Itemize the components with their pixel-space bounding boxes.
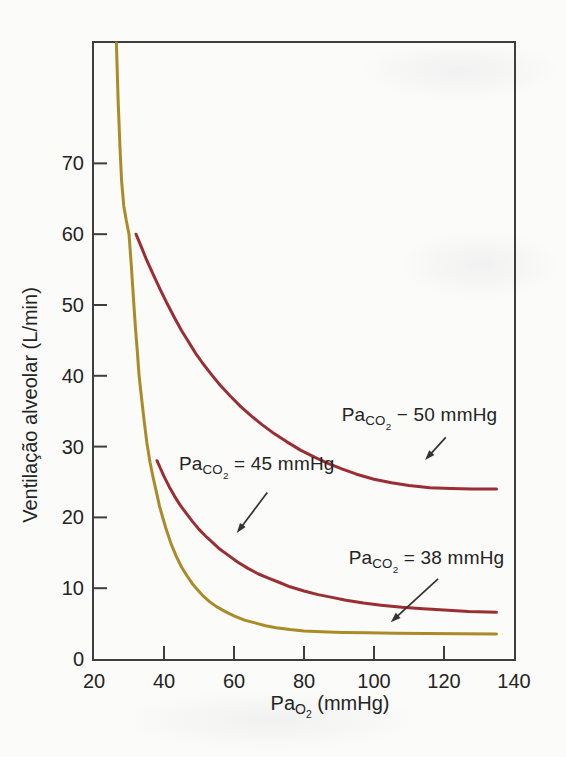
scanned-figure-page: PaCO2 − 50 mmHgPaCO2 = 45 mmHgPaCO2 = 38… <box>0 0 566 757</box>
annotation-paco2-38: PaCO2 = 38 mmHg <box>349 547 505 574</box>
annotation-text-base: Pa <box>349 547 373 568</box>
annotation-text-rest: = 38 mmHg <box>398 547 504 568</box>
annotation-text-base: Pa <box>179 453 203 474</box>
y-tick-label: 50 <box>36 293 84 316</box>
curve-paco2-50 <box>136 234 497 489</box>
x-axis-title-base: Pa <box>271 692 295 714</box>
y-tick-label: 40 <box>36 364 84 387</box>
x-tick-label: 60 <box>223 670 245 693</box>
annotation-text-sub: CO <box>372 556 392 571</box>
x-tick-label: 140 <box>497 670 530 693</box>
x-tick-label: 80 <box>293 670 315 693</box>
annotation-arrow-line <box>395 579 438 618</box>
x-axis-title-rest: (mmHg) <box>312 692 390 714</box>
annotation-paco2-45: PaCO2 = 45 mmHg <box>179 453 335 480</box>
y-tick-label: 30 <box>36 435 84 458</box>
x-axis-title: PaO2 (mmHg) <box>271 692 390 721</box>
plot-area: PaCO2 − 50 mmHgPaCO2 = 45 mmHgPaCO2 = 38… <box>92 41 516 661</box>
annotation-text-base: Pa <box>342 405 366 426</box>
y-tick-label: 70 <box>36 152 84 175</box>
x-tick-label: 100 <box>357 670 390 693</box>
annotation-text-sub: CO <box>203 462 223 477</box>
y-tick-label: 0 <box>36 648 84 671</box>
x-tick-label: 40 <box>153 670 175 693</box>
curve-paco2-38 <box>116 43 496 634</box>
x-tick-label: 20 <box>83 670 105 693</box>
annotation-text-sub: CO <box>365 414 385 429</box>
y-tick-label: 10 <box>36 577 84 600</box>
y-tick-label: 20 <box>36 506 84 529</box>
x-tick-label: 120 <box>427 670 460 693</box>
y-tick-label: 60 <box>36 223 84 246</box>
annotation-paco2-50: PaCO2 − 50 mmHg <box>342 405 498 432</box>
annotation-arrow-line <box>240 493 267 529</box>
x-axis-title-sub: O <box>295 701 306 717</box>
annotation-text-rest: − 50 mmHg <box>391 405 497 426</box>
y-axis-title-text: Ventilação alveolar (L/min) <box>19 287 41 523</box>
annotation-text-rest: = 45 mmHg <box>229 453 335 474</box>
curve-paco2-45 <box>157 461 497 613</box>
